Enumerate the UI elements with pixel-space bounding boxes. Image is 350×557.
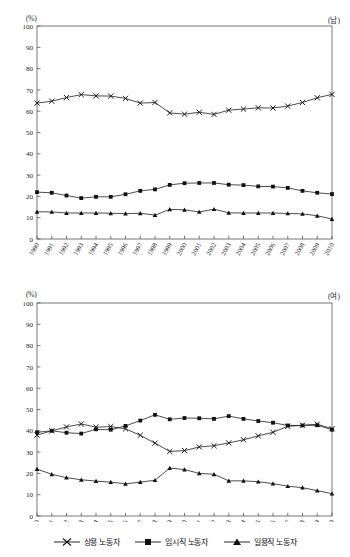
svg-text:1991: 1991	[42, 242, 55, 257]
svg-text:90: 90	[26, 44, 34, 52]
svg-text:1996: 1996	[116, 518, 129, 522]
svg-text:1995: 1995	[101, 518, 114, 522]
svg-text:1995: 1995	[101, 241, 114, 257]
svg-text:40: 40	[26, 150, 34, 158]
svg-text:2009: 2009	[308, 241, 321, 257]
svg-text:2001: 2001	[190, 242, 203, 257]
triangle-marker-icon	[224, 537, 250, 547]
svg-text:2002: 2002	[205, 242, 218, 257]
svg-text:2010: 2010	[323, 241, 336, 257]
svg-text:1999: 1999	[160, 518, 173, 522]
chart-panel-male: (%) (남) 01020304050607080901001990199119…	[0, 0, 350, 282]
svg-text:1993: 1993	[72, 518, 85, 522]
chart-page: (%) (남) 01020304050607080901001990199119…	[0, 0, 350, 557]
legend-label-regular: 상용 노동자	[84, 536, 120, 547]
svg-text:10: 10	[26, 491, 34, 499]
svg-text:60: 60	[26, 108, 34, 116]
chart-panel-female: (%) (여) 01020304050607080901001990199119…	[0, 282, 350, 522]
svg-text:2009: 2009	[308, 518, 321, 522]
svg-text:1992: 1992	[57, 519, 70, 523]
svg-text:100: 100	[23, 300, 34, 308]
svg-text:1998: 1998	[146, 518, 159, 522]
svg-text:80: 80	[26, 65, 34, 73]
svg-text:2008: 2008	[293, 241, 306, 257]
svg-text:1992: 1992	[57, 242, 70, 257]
x-marker-icon	[54, 537, 80, 547]
svg-text:30: 30	[26, 449, 34, 457]
svg-text:2007: 2007	[278, 241, 291, 257]
svg-text:80: 80	[26, 342, 34, 350]
svg-text:20: 20	[26, 470, 34, 478]
svg-text:2005: 2005	[249, 518, 262, 522]
legend-label-daily: 일용직 노동자	[254, 536, 296, 547]
svg-text:2006: 2006	[264, 518, 277, 522]
legend-item-daily: 일용직 노동자	[224, 536, 296, 547]
svg-text:2004: 2004	[234, 241, 247, 257]
svg-text:1996: 1996	[116, 241, 129, 257]
svg-text:1993: 1993	[72, 241, 85, 257]
svg-text:2000: 2000	[175, 241, 188, 257]
svg-text:100: 100	[23, 23, 34, 31]
svg-text:1997: 1997	[131, 241, 144, 257]
svg-text:50: 50	[26, 129, 34, 137]
svg-text:2007: 2007	[278, 518, 291, 522]
legend-item-regular: 상용 노동자	[54, 536, 120, 547]
svg-text:2004: 2004	[234, 518, 247, 522]
svg-text:70: 70	[26, 87, 34, 95]
svg-text:30: 30	[26, 172, 34, 180]
line-chart-male: 0102030405060708090100199019911992199319…	[0, 0, 350, 282]
svg-text:1997: 1997	[131, 518, 144, 522]
svg-text:2010: 2010	[323, 518, 336, 522]
svg-text:70: 70	[26, 364, 34, 372]
svg-text:2005: 2005	[249, 241, 262, 257]
legend-item-temporary: 임시직 노동자	[135, 536, 207, 547]
line-chart-female: 0102030405060708090100199019911992199319…	[0, 282, 350, 522]
svg-text:40: 40	[26, 427, 34, 435]
square-marker-icon	[135, 537, 161, 547]
svg-text:2006: 2006	[264, 241, 277, 257]
svg-text:2002: 2002	[205, 519, 218, 523]
svg-text:1998: 1998	[146, 241, 159, 257]
legend-label-temporary: 임시직 노동자	[165, 536, 207, 547]
svg-text:2001: 2001	[190, 519, 203, 523]
svg-text:90: 90	[26, 321, 34, 329]
svg-text:2003: 2003	[219, 241, 232, 257]
svg-text:20: 20	[26, 193, 34, 201]
svg-text:1994: 1994	[87, 241, 100, 257]
svg-text:2008: 2008	[293, 518, 306, 522]
chart-legend: 상용 노동자 임시직 노동자 일용직 노동자	[0, 536, 350, 547]
svg-text:1991: 1991	[42, 519, 55, 523]
svg-text:60: 60	[26, 385, 34, 393]
svg-text:10: 10	[26, 214, 34, 222]
svg-text:1999: 1999	[160, 241, 173, 257]
svg-text:1994: 1994	[87, 518, 100, 522]
svg-text:2000: 2000	[175, 518, 188, 522]
svg-text:2003: 2003	[219, 518, 232, 522]
svg-text:50: 50	[26, 406, 34, 414]
